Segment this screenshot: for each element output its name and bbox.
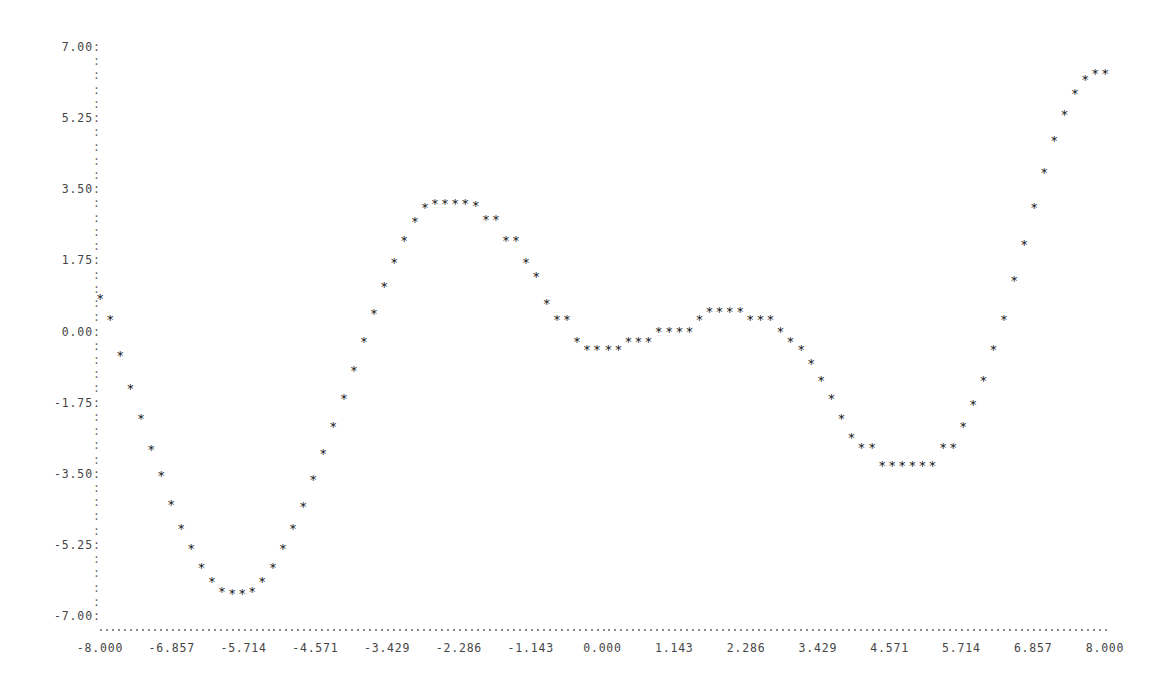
data-point bbox=[757, 314, 764, 321]
data-point bbox=[1071, 88, 1078, 95]
data-point bbox=[127, 383, 134, 390]
x-axis-dot bbox=[985, 629, 987, 631]
data-point bbox=[1010, 275, 1017, 282]
x-axis-dot bbox=[315, 629, 317, 631]
data-point bbox=[147, 444, 154, 451]
data-point bbox=[259, 576, 266, 583]
x-axis-dot bbox=[1105, 629, 1107, 631]
x-axis-dot bbox=[184, 629, 186, 631]
y-axis-minor-mark: : bbox=[93, 142, 100, 152]
x-axis-tick-label: 0.000 bbox=[583, 641, 622, 655]
data-point bbox=[1081, 74, 1088, 81]
y-axis-minor-mark: : bbox=[93, 312, 100, 322]
data-point bbox=[573, 336, 580, 343]
data-point bbox=[512, 235, 519, 242]
x-axis-dot bbox=[842, 629, 844, 631]
x-axis-dot bbox=[830, 629, 832, 631]
data-point bbox=[706, 306, 713, 313]
data-point bbox=[787, 336, 794, 343]
x-axis-dot bbox=[608, 629, 610, 631]
x-axis-dot bbox=[573, 629, 575, 631]
x-axis-dot bbox=[381, 629, 383, 631]
x-axis-dot bbox=[1021, 629, 1023, 631]
x-axis-dot bbox=[423, 629, 425, 631]
y-axis-tick-label: 1.75 bbox=[62, 253, 93, 267]
x-axis-dot bbox=[148, 629, 150, 631]
x-axis-dot bbox=[441, 629, 443, 631]
data-point bbox=[726, 306, 733, 313]
data-point bbox=[747, 314, 754, 321]
x-axis-dot bbox=[704, 629, 706, 631]
x-axis-dot bbox=[961, 629, 963, 631]
x-axis-dot bbox=[908, 629, 910, 631]
data-point bbox=[889, 460, 896, 467]
x-axis-tick-label: -4.571 bbox=[292, 641, 338, 655]
x-axis-dot bbox=[620, 629, 622, 631]
data-point bbox=[350, 365, 357, 372]
x-axis-dot bbox=[764, 629, 766, 631]
y-axis-tick-mark: : bbox=[93, 467, 100, 481]
data-point bbox=[980, 375, 987, 382]
data-point bbox=[605, 344, 612, 351]
y-axis-minor-mark: : bbox=[93, 426, 100, 436]
data-point bbox=[431, 198, 438, 205]
data-point bbox=[797, 344, 804, 351]
x-axis-dot bbox=[662, 629, 664, 631]
x-axis-dot bbox=[297, 629, 299, 631]
x-axis-dot bbox=[890, 629, 892, 631]
x-axis-dot bbox=[878, 629, 880, 631]
x-axis-dot bbox=[202, 629, 204, 631]
data-point bbox=[401, 235, 408, 242]
data-point bbox=[808, 358, 815, 365]
data-point bbox=[279, 543, 286, 550]
x-axis-dot bbox=[932, 629, 934, 631]
x-axis-dot bbox=[794, 629, 796, 631]
x-axis-dot bbox=[495, 629, 497, 631]
x-axis-dot bbox=[597, 629, 599, 631]
data-point bbox=[238, 588, 245, 595]
y-axis-tick-mark: : bbox=[93, 40, 100, 54]
y-axis-minor-mark: : bbox=[93, 383, 100, 393]
x-axis-dot bbox=[1009, 629, 1011, 631]
x-axis-dot bbox=[567, 629, 569, 631]
x-axis-dot bbox=[537, 629, 539, 631]
x-axis-dot bbox=[345, 629, 347, 631]
x-axis-dot bbox=[1099, 629, 1101, 631]
x-axis-dot bbox=[262, 629, 264, 631]
x-axis-dotted-line bbox=[100, 629, 1106, 632]
data-point bbox=[269, 562, 276, 569]
data-point bbox=[1061, 109, 1068, 116]
x-axis-dot bbox=[872, 629, 874, 631]
data-point bbox=[472, 200, 479, 207]
y-axis-tick-mark: : bbox=[93, 538, 100, 552]
y-axis-tick-label: -3.50 bbox=[54, 467, 93, 481]
x-axis-dot bbox=[453, 629, 455, 631]
x-axis-dot bbox=[489, 629, 491, 631]
x-axis-tick-label: -8.000 bbox=[77, 641, 123, 655]
x-axis-dot bbox=[279, 629, 281, 631]
data-point bbox=[1020, 239, 1027, 246]
y-axis-minor-mark: : bbox=[93, 511, 100, 521]
x-axis-dot bbox=[363, 629, 365, 631]
x-axis-dot bbox=[896, 629, 898, 631]
x-axis-dot bbox=[459, 629, 461, 631]
x-axis-dot bbox=[387, 629, 389, 631]
data-point bbox=[615, 344, 622, 351]
x-axis-dot bbox=[668, 629, 670, 631]
data-point bbox=[137, 413, 144, 420]
data-point bbox=[1000, 314, 1007, 321]
data-point bbox=[553, 314, 560, 321]
x-axis-dot bbox=[722, 629, 724, 631]
x-axis-dot bbox=[477, 629, 479, 631]
x-axis-dot bbox=[555, 629, 557, 631]
data-point bbox=[737, 306, 744, 313]
x-axis-dot bbox=[854, 629, 856, 631]
x-axis-dot bbox=[1015, 629, 1017, 631]
x-axis-tick-label: -1.143 bbox=[508, 641, 554, 655]
x-axis-tick-label: 5.714 bbox=[942, 641, 981, 655]
x-axis-dot bbox=[291, 629, 293, 631]
x-axis-dot bbox=[848, 629, 850, 631]
x-axis-dot bbox=[949, 629, 951, 631]
data-point bbox=[655, 326, 662, 333]
data-point bbox=[208, 576, 215, 583]
